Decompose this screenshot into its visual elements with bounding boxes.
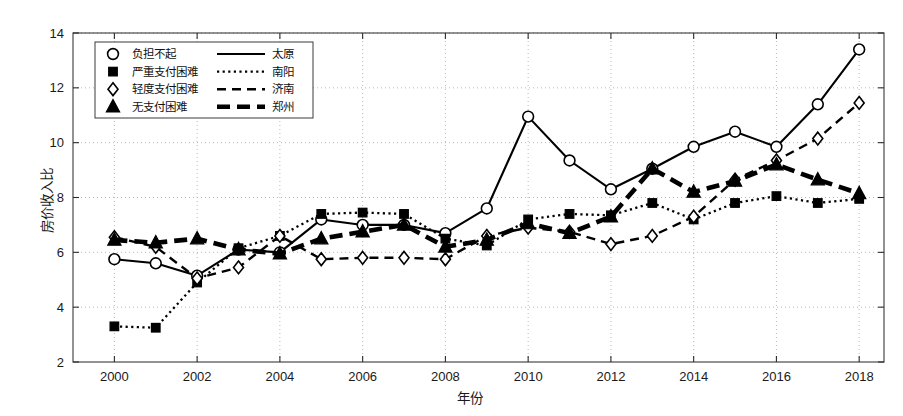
- marker-circle: [109, 254, 120, 265]
- y-tick-label: 2: [57, 355, 64, 370]
- legend-city-label: 郑州: [272, 100, 294, 114]
- x-tick-label: 2002: [183, 369, 212, 384]
- x-tick-label: 2006: [348, 369, 377, 384]
- marker-circle: [108, 49, 119, 60]
- y-tick-label: 12: [50, 80, 64, 95]
- x-tick-label: 2012: [596, 369, 625, 384]
- y-tick-label: 10: [50, 135, 64, 150]
- marker-square: [110, 322, 119, 331]
- marker-circle: [771, 141, 782, 152]
- x-tick-label: 2008: [431, 369, 460, 384]
- chart-legend[interactable]: 负担不起太原严重支付困难南阳轻度支付困难济南无支付困难郑州: [95, 42, 313, 118]
- chart-page: 2468101214200020022004200620082010201220…: [0, 0, 903, 416]
- legend-category-label: 严重支付困难: [132, 65, 198, 79]
- x-axis-title: 年份: [457, 390, 484, 406]
- marker-square: [648, 199, 657, 208]
- legend-city-label: 太原: [272, 47, 294, 61]
- legend-city-label: 南阳: [272, 65, 294, 79]
- marker-square: [109, 67, 118, 76]
- marker-square: [565, 210, 574, 219]
- x-tick-label: 2004: [265, 369, 294, 384]
- marker-circle: [481, 203, 492, 214]
- marker-circle: [812, 99, 823, 110]
- marker-square: [358, 208, 367, 217]
- marker-circle: [606, 184, 617, 195]
- legend-category-label: 负担不起: [132, 47, 177, 61]
- marker-circle: [150, 258, 161, 269]
- y-tick-label: 14: [50, 26, 64, 41]
- x-tick-label: 2018: [845, 369, 874, 384]
- x-tick-label: 2014: [679, 369, 708, 384]
- marker-square: [151, 323, 160, 332]
- y-tick-label: 4: [57, 300, 64, 315]
- y-tick-label: 6: [57, 245, 64, 260]
- legend-category-label: 轻度支付困难: [132, 82, 198, 96]
- marker-circle: [688, 141, 699, 152]
- house-price-to-income-ratio-line-chart: 2468101214200020022004200620082010201220…: [0, 0, 903, 416]
- y-tick-label: 8: [57, 190, 64, 205]
- marker-square: [317, 210, 326, 219]
- x-tick-label: 2010: [514, 369, 543, 384]
- y-axis-title: 房价收入比: [39, 168, 55, 233]
- legend-city-label: 济南: [272, 82, 294, 96]
- marker-square: [772, 192, 781, 201]
- marker-circle: [854, 44, 865, 55]
- marker-circle: [523, 111, 534, 122]
- marker-square: [813, 199, 822, 208]
- marker-square: [731, 199, 740, 208]
- marker-circle: [564, 155, 575, 166]
- x-tick-label: 2016: [762, 369, 791, 384]
- x-tick-label: 2000: [100, 369, 129, 384]
- marker-circle: [730, 126, 741, 137]
- legend-category-label: 无支付困难: [132, 100, 187, 114]
